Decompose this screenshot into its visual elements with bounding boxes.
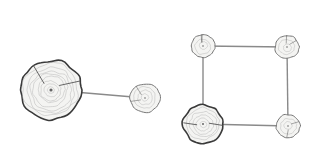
tree-stump-icon <box>191 34 215 57</box>
diagram-canvas <box>0 0 320 159</box>
edge-square-graph-TL-TR <box>203 46 287 47</box>
edge-square-graph-TR-BR <box>287 47 288 126</box>
